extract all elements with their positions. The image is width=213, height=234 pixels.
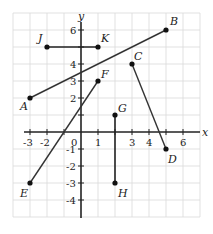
point-h (112, 180, 117, 185)
y-tick-label: 6 (70, 25, 76, 36)
point-a (27, 95, 32, 100)
point-g (112, 112, 117, 117)
x-tick-label: -3 (23, 137, 33, 148)
y-tick-label: -1 (66, 144, 76, 155)
y-tick-label: -2 (66, 161, 76, 172)
x-tick-label: 1 (95, 137, 101, 148)
point-label-g: G (118, 102, 127, 115)
point-k (95, 44, 100, 49)
y-tick-label: 4 (70, 59, 76, 70)
point-label-d: D (167, 153, 177, 166)
y-axis-label: y (77, 10, 85, 23)
point-label-b: B (169, 15, 178, 28)
point-label-f: F (100, 68, 109, 81)
point-label-h: H (117, 187, 128, 200)
x-tick-label: 4 (146, 137, 152, 148)
point-label-c: C (134, 50, 143, 63)
point-d (163, 146, 168, 151)
y-tick-label: -4 (66, 195, 76, 206)
y-tick-label: -3 (66, 178, 76, 189)
point-b (163, 27, 168, 32)
point-j (44, 44, 49, 49)
point-f (95, 78, 100, 83)
point-label-j: J (36, 32, 43, 45)
x-tick-label: 6 (180, 137, 186, 148)
point-label-k: K (100, 32, 110, 45)
y-tick-label: 2 (70, 93, 76, 104)
x-tick-label: 3 (129, 137, 135, 148)
point-label-a: A (19, 100, 28, 113)
point-label-e: E (19, 187, 28, 200)
x-tick-label: -2 (40, 137, 50, 148)
point-e (27, 180, 32, 185)
coordinate-plane: x y -3 -2 0 1 3 4 6 6 4 3 2 -1 -2 -3 -4 … (0, 0, 213, 234)
x-axis-label: x (202, 126, 209, 139)
